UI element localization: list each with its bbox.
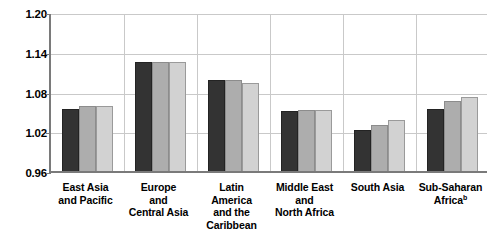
category-label-line: and — [122, 194, 195, 207]
bar — [135, 62, 152, 171]
category-label-line: Africab — [414, 194, 487, 207]
bar — [62, 109, 79, 171]
bar — [208, 80, 225, 171]
y-axis-tick-mark — [46, 173, 51, 174]
category-label-line: Latin — [195, 181, 268, 194]
bar — [427, 109, 444, 171]
bar-group — [197, 14, 270, 171]
x-axis-category-label: LatinAmericaand theCaribbean — [195, 181, 268, 231]
bar — [169, 62, 186, 171]
category-label-line: and the — [195, 206, 268, 219]
category-label-line: Central Asia — [122, 206, 195, 219]
x-axis-category-label: South Asia — [341, 181, 414, 194]
bar-group — [270, 14, 343, 171]
x-axis-category-label: EuropeandCentral Asia — [122, 181, 195, 219]
y-axis-tick-label: 1.20 — [3, 8, 47, 20]
bar — [281, 111, 298, 171]
category-label-line: Middle East — [268, 181, 341, 194]
y-axis-tick-label: 1.08 — [3, 88, 47, 100]
category-label-line: America — [195, 194, 268, 207]
bar-group — [51, 14, 124, 171]
bar — [96, 106, 113, 171]
bar — [225, 80, 242, 171]
y-axis-tick-label: 0.96 — [3, 167, 47, 179]
bar — [298, 110, 315, 171]
x-axis-category-label: Sub-SaharanAfricab — [414, 181, 487, 206]
bar — [371, 125, 388, 171]
footnote-marker: b — [463, 193, 467, 200]
category-label-line: Europe — [122, 181, 195, 194]
category-label-line: North Africa — [268, 206, 341, 219]
y-axis-tick-label: 1.14 — [3, 48, 47, 60]
x-axis-category-label: East Asiaand Pacific — [49, 181, 122, 206]
category-label-line: and — [268, 194, 341, 207]
bar-chart: 0.961.021.081.141.20 East Asiaand Pacifi… — [0, 0, 504, 243]
bar — [152, 62, 169, 171]
bar — [242, 83, 259, 171]
bar-group — [124, 14, 197, 171]
bar — [315, 110, 332, 171]
category-label-line: South Asia — [341, 181, 414, 194]
bar — [354, 130, 371, 171]
bar-group — [416, 14, 489, 171]
category-label-line: Sub-Saharan — [414, 181, 487, 194]
category-label-line: Caribbean — [195, 219, 268, 232]
bar-group — [343, 14, 416, 171]
bar — [79, 106, 96, 171]
category-label-line: and Pacific — [49, 194, 122, 207]
category-label-line: East Asia — [49, 181, 122, 194]
y-axis-tick-label: 1.02 — [3, 127, 47, 139]
bar — [461, 97, 478, 171]
bar — [388, 120, 405, 171]
plot-area — [49, 14, 487, 173]
x-axis-category-label: Middle EastandNorth Africa — [268, 181, 341, 219]
bar — [444, 101, 461, 171]
